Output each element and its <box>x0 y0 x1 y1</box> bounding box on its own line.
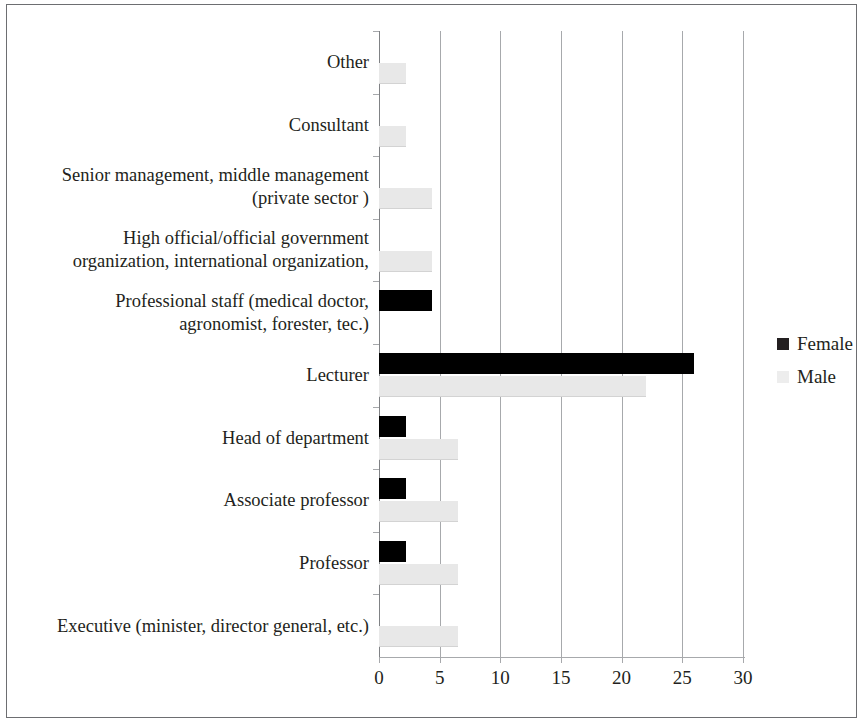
category-label: Executive (minister, director general, e… <box>17 614 369 637</box>
chart-row: Senior management, middle management (pr… <box>7 156 858 219</box>
bar-chart: 051015202530OtherConsultantSenior manage… <box>7 5 858 719</box>
bar-group <box>379 219 849 282</box>
chart-row: Executive (minister, director general, e… <box>7 594 858 657</box>
chart-row: High official/official government organi… <box>7 219 858 282</box>
bar-group <box>379 469 849 532</box>
category-label: High official/official government organi… <box>17 227 369 273</box>
chart-row: Professor <box>7 532 858 595</box>
bar-group <box>379 407 849 470</box>
bar-female <box>379 541 406 562</box>
category-label: Consultant <box>17 113 369 136</box>
x-tick-label-10: 10 <box>480 666 520 690</box>
legend-item-female: Female <box>777 327 863 360</box>
bar-group <box>379 532 849 595</box>
chart-row: Consultant <box>7 94 858 157</box>
category-label: Professor <box>17 552 369 575</box>
x-tick-label-20: 20 <box>602 666 642 690</box>
category-label: Head of department <box>17 426 369 449</box>
category-label: Lecturer <box>17 364 369 387</box>
bar-female <box>379 416 406 437</box>
bar-male <box>379 439 458 460</box>
legend-swatch-male-icon <box>777 371 789 383</box>
bar-male <box>379 188 432 209</box>
bar-male <box>379 501 458 522</box>
x-tick-label-15: 15 <box>541 666 581 690</box>
legend-label-female: Female <box>797 333 853 355</box>
bar-male <box>379 251 432 272</box>
bar-male <box>379 564 458 585</box>
x-tick-label-0: 0 <box>359 666 399 690</box>
x-tick-label-25: 25 <box>662 666 702 690</box>
legend-label-male: Male <box>797 366 836 388</box>
chart-figure-frame: 051015202530OtherConsultantSenior manage… <box>6 4 857 718</box>
chart-row: Associate professor <box>7 469 858 532</box>
category-label: Associate professor <box>17 489 369 512</box>
category-label: Senior management, middle management (pr… <box>17 164 369 210</box>
bar-female <box>379 478 406 499</box>
bar-group <box>379 31 849 94</box>
chart-row: Head of department <box>7 407 858 470</box>
bar-male <box>379 126 406 147</box>
x-tick-label-30: 30 <box>723 666 763 690</box>
category-label: Other <box>17 51 369 74</box>
bar-male <box>379 63 406 84</box>
legend-swatch-female-icon <box>777 338 789 350</box>
chart-row: Professional staff (medical doctor, agro… <box>7 281 858 344</box>
bar-female <box>379 290 432 311</box>
legend-item-male: Male <box>777 360 863 393</box>
category-label: Professional staff (medical doctor, agro… <box>17 290 369 336</box>
bar-male <box>379 376 646 397</box>
chart-row: Other <box>7 31 858 94</box>
x-tick-label-5: 5 <box>420 666 460 690</box>
bar-group <box>379 94 849 157</box>
chart-legend: Female Male <box>777 327 863 393</box>
bar-female <box>379 353 694 374</box>
bar-male <box>379 626 458 647</box>
chart-row: Lecturer <box>7 344 858 407</box>
x-axis-line <box>379 657 745 658</box>
bar-group <box>379 156 849 219</box>
bar-group <box>379 594 849 657</box>
